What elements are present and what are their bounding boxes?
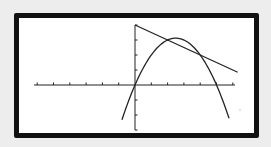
calculator-graph-screen xyxy=(14,13,259,138)
chart-type: line xyxy=(0,0,1,1)
function-plot xyxy=(14,13,259,138)
parabola-series xyxy=(122,38,229,120)
curves xyxy=(122,25,238,120)
axes xyxy=(34,25,235,130)
graph-area xyxy=(19,18,254,133)
line-series xyxy=(135,25,238,72)
stray-pixel xyxy=(239,109,241,111)
